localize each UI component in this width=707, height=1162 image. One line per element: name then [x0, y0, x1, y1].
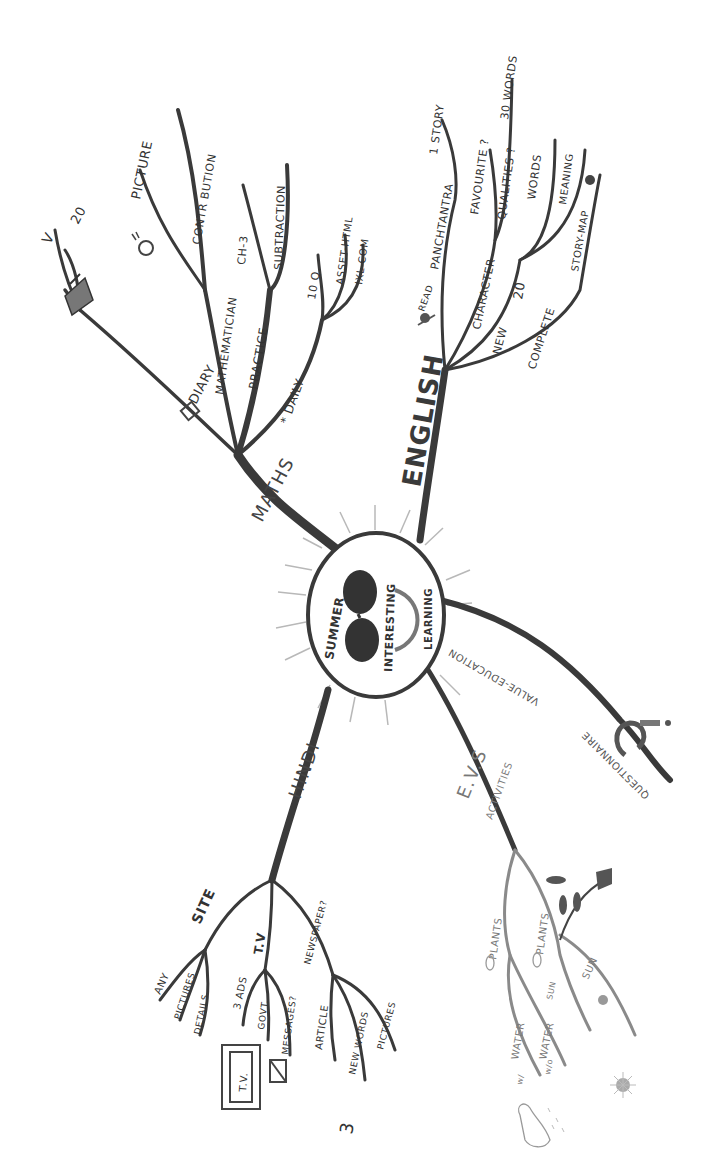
maths-ch3: CH-3: [235, 235, 251, 265]
value-education-label: VALUE-EDUCATION: [446, 647, 541, 708]
maths-diary: DIARY: [185, 362, 218, 406]
english-meaning: MEANING: [557, 153, 575, 206]
english-words: WORDS: [525, 153, 544, 200]
meaning-dot-icon: [585, 175, 595, 185]
tv-box-icon: T.V.: [222, 1045, 260, 1109]
evs-label: E.V.S: [452, 746, 491, 802]
hindi-article: ARTICLE: [313, 1004, 330, 1050]
english-read: READ: [416, 283, 435, 312]
maths-subtraction: SUBTRACTION: [272, 185, 288, 270]
sunglasses-right-icon: [345, 618, 379, 662]
hindi-3: 3: [335, 1120, 358, 1136]
english-label: ENGLISH: [396, 351, 449, 489]
hindi-label: HINDI: [284, 739, 324, 802]
evs-subtree: E.V.S ACTIVITIES PLANTS PLANTS WATER WAT…: [452, 746, 636, 1147]
hindi-pictures-2: PICTURES: [375, 1001, 397, 1051]
hub-line-learning: LEARNING: [423, 588, 434, 650]
sunglasses-left-icon: [343, 570, 377, 614]
calendar-icon: [65, 274, 93, 315]
english-favourite: FAVOURITE ?: [468, 138, 492, 216]
envelope-icon: [270, 1060, 286, 1082]
english-1-story: 1 STORY: [427, 103, 447, 155]
main-branches: [238, 370, 670, 880]
english-qualities: QUALITIES ?: [495, 146, 518, 221]
book-reader-icon: [418, 313, 435, 325]
mind-map-canvas: SUMMER INTERESTING LEARNING MATHS DIARY …: [0, 0, 707, 1162]
english-20: 20: [510, 280, 528, 300]
evs-sun-1: SUN: [545, 980, 558, 1000]
english-30-words: 30 WORDS: [498, 54, 520, 120]
maths-subtree: MATHS DIARY V 20 MATHEMATICIAN PICTURE C…: [39, 110, 371, 525]
evs-plants-b: PLANTS: [534, 912, 551, 955]
evs-with: w/: [515, 1073, 526, 1085]
central-hub: SUMMER INTERESTING LEARNING: [308, 533, 444, 697]
hindi-new-words: NEW WORDS: [347, 1010, 370, 1075]
hindi-subtree: HINDI SITE ANY PICTURES DETAILS T.V 3 AD…: [152, 739, 398, 1136]
english-character: CHARACTER: [470, 257, 498, 331]
maths-daily: * DAILY: [278, 377, 307, 426]
sun-icon: [598, 995, 636, 1098]
maths-ixl: IXL-COM: [353, 238, 370, 286]
english-panchtantra: PANCHTANTRA: [428, 182, 456, 270]
svg-text:T.V.: T.V.: [237, 1072, 250, 1093]
hindi-site: SITE: [188, 886, 218, 926]
rain-cloud-icon: [519, 1104, 564, 1147]
maths-asset: ASSET-HTML: [334, 216, 354, 285]
face-picture-icon: [132, 232, 153, 255]
maths-picture: PICTURE: [128, 139, 155, 200]
hindi-details: DETAILS: [192, 993, 210, 1035]
evs-plants-a: PLANTS: [487, 917, 504, 960]
english-subtree: ENGLISH READ PANCHTANTRA 1 STORY CHARACT…: [396, 54, 600, 489]
maths-20: 20: [67, 204, 89, 227]
evs-without: w/o: [543, 1058, 555, 1075]
maths-practice: PRACTICE: [246, 326, 271, 391]
hindi-any: ANY: [152, 971, 171, 996]
